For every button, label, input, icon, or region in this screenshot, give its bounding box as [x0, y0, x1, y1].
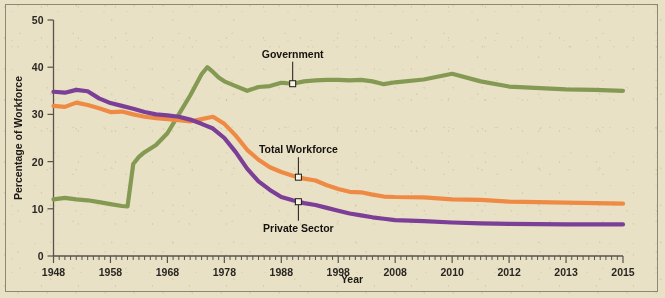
x-axis: 1948195819681978198819982008201020122013…	[42, 256, 635, 278]
y-axis-title: Percentage of Workforce	[12, 76, 24, 200]
y-tick-label: 10	[32, 203, 44, 215]
chart-figure: 01020304050 1948195819681978198819982008…	[0, 0, 665, 298]
annotation-marker	[290, 81, 296, 87]
annotation-label-total-workforce: Total Workforce	[259, 143, 338, 155]
x-tick-label: 2010	[440, 266, 464, 278]
x-tick-label: 2012	[497, 266, 521, 278]
y-tick-label: 30	[32, 108, 44, 120]
series-line-total-workforce	[54, 103, 624, 204]
y-tick-label: 50	[32, 14, 44, 26]
x-tick-label: 2013	[554, 266, 578, 278]
line-chart: 01020304050 1948195819681978198819982008…	[0, 0, 665, 298]
x-tick-label: 1988	[270, 266, 294, 278]
series-line-government	[54, 67, 624, 206]
annotation-marker	[295, 199, 301, 205]
x-tick-label: 2015	[611, 266, 635, 278]
annotation-label-private-sector: Private Sector	[263, 222, 334, 234]
y-axis: 01020304050	[32, 14, 54, 262]
annotation-label-government: Government	[262, 48, 324, 60]
annotation-marker	[295, 174, 301, 180]
y-tick-label: 20	[32, 156, 44, 168]
x-tick-label: 1978	[213, 266, 237, 278]
series-lines	[54, 67, 624, 224]
x-tick-label: 1948	[42, 266, 66, 278]
x-tick-label: 1968	[156, 266, 180, 278]
x-axis-title: Year	[341, 273, 363, 285]
y-tick-label: 40	[32, 61, 44, 73]
x-tick-label: 2008	[384, 266, 408, 278]
y-tick-label: 0	[38, 250, 44, 262]
x-tick-label: 1958	[99, 266, 123, 278]
